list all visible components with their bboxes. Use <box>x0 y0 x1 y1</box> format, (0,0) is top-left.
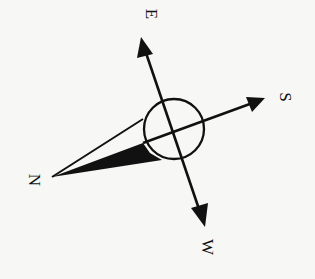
label-south: S <box>276 92 295 101</box>
compass-diagram: E S N W <box>0 0 315 279</box>
label-west: W <box>198 239 217 256</box>
east-arrowhead <box>137 37 153 58</box>
label-east: E <box>142 9 161 19</box>
center-circle <box>144 99 204 159</box>
south-axis <box>143 101 258 143</box>
compass-rose <box>52 37 265 227</box>
label-north: N <box>25 174 44 186</box>
north-needle-fill <box>52 143 162 177</box>
west-arrowhead <box>191 203 208 227</box>
